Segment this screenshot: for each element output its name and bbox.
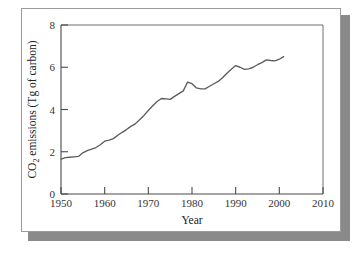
y-axis-title-suffix: emissions (Tg of carbon) xyxy=(26,40,39,158)
co2-emissions-series-line xyxy=(61,57,284,159)
x-tick-label-1960: 1960 xyxy=(94,197,117,209)
x-tick-label-1990: 1990 xyxy=(225,197,248,209)
chart-plot-area: 8 6 4 2 0 1950 1960 1970 1980 xyxy=(22,9,342,233)
x-axis-title: Year xyxy=(181,214,202,226)
plot-frame-top-right xyxy=(61,25,323,194)
y-tick-label-2: 2 xyxy=(50,146,56,158)
y-tick-label-4: 4 xyxy=(50,104,56,116)
x-axis-tick-labels: 1950 1960 1970 1980 1990 2000 2010 xyxy=(50,197,335,209)
x-tick-label-1970: 1970 xyxy=(137,197,160,209)
x-tick-label-1950: 1950 xyxy=(50,197,73,209)
x-tick-label-2000: 2000 xyxy=(268,197,291,209)
x-tick-label-1980: 1980 xyxy=(181,197,204,209)
y-axis-tick-labels: 8 6 4 2 0 xyxy=(50,19,56,200)
x-axis-ticks xyxy=(61,187,323,194)
y-axis-title: CO2 emissions (Tg of carbon) xyxy=(26,40,41,178)
y-axis-ticks xyxy=(61,25,68,194)
co2-emissions-line-chart: 8 6 4 2 0 1950 1960 1970 1980 xyxy=(22,9,342,233)
y-tick-label-6: 6 xyxy=(50,61,56,73)
figure-card: 8 6 4 2 0 1950 1960 1970 1980 xyxy=(21,8,341,232)
x-tick-label-2010: 2010 xyxy=(312,197,335,209)
y-tick-label-8: 8 xyxy=(50,19,56,31)
y-axis-title-prefix: CO xyxy=(26,163,38,179)
